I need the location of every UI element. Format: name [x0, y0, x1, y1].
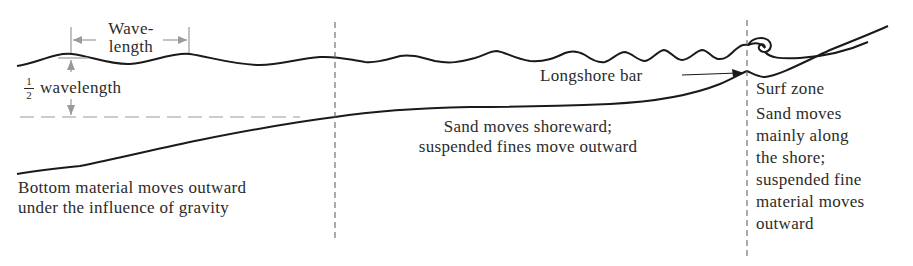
- breaking-wave-curl: [748, 38, 771, 52]
- surf-zone-line2: mainly along: [756, 125, 865, 147]
- surf-zone-line6: outward: [756, 213, 865, 235]
- middle-zone-line1: Sand moves shoreward;: [378, 117, 678, 137]
- wavelength-label-line1: Wave-: [96, 20, 166, 38]
- longshore-bar-label: Longshore bar: [540, 66, 643, 86]
- middle-zone-description: Sand moves shoreward; suspended fines mo…: [378, 117, 678, 157]
- surf-zone-line1: Sand moves: [756, 103, 865, 125]
- offshore-zone-description: Bottom material moves outward under the …: [18, 178, 246, 218]
- wavelength-label-line2: length: [96, 38, 166, 56]
- surf-zone-line4: suspended fine: [756, 169, 865, 191]
- half-wavelength-label: wavelength: [40, 78, 121, 98]
- surf-zone-label: Surf zone: [756, 79, 824, 99]
- surf-zone-line5: material moves: [756, 191, 865, 213]
- offshore-zone-line2: under the influence of gravity: [18, 198, 246, 218]
- middle-zone-line2: suspended fines move outward: [378, 137, 678, 157]
- surf-zone-line3: the shore;: [756, 147, 865, 169]
- wavelength-label: Wave- length: [96, 20, 166, 56]
- offshore-zone-line1: Bottom material moves outward: [18, 178, 246, 198]
- surf-zone-description: Sand moves mainly along the shore; suspe…: [756, 103, 865, 235]
- half-fraction: 1 2: [24, 76, 34, 101]
- half-fraction-denominator: 2: [24, 90, 34, 101]
- longshore-bar-arrow: [682, 69, 744, 77]
- half-fraction-numerator: 1: [24, 76, 34, 87]
